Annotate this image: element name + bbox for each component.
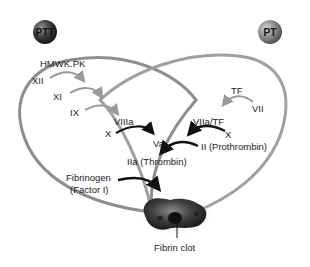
pt-label: PT [264,27,277,38]
factor-viiia: VIIIa [114,116,134,127]
factor-hmwk-pk: HMWK.PK [40,58,86,69]
factor-tf: TF [231,85,243,96]
fibrin-clot-label: Fibrin clot [154,242,196,253]
arrow-ix-to-x [85,105,117,113]
factor-xi: XI [53,91,62,102]
factor-x-extrinsic: X [225,129,232,140]
fibrin-clot-icon [134,194,218,238]
factor-vii: VII [252,103,264,114]
factor-i-label: (Factor I) [70,184,109,195]
factor-ii-prothrombin: II (Prothrombin) [201,141,267,152]
ptt-badge: PTT [33,20,57,44]
factor-va: Va [153,138,165,149]
pt-badge: PT [258,20,282,44]
factor-ix: IX [70,107,80,118]
factor-xii: XII [32,75,44,86]
factor-fibrinogen: Fibrinogen [66,172,111,183]
arrow-xii-to-xi [50,72,83,80]
arrow-x-to-va-extrinsic [190,126,225,133]
arrow-xi-to-ix [70,88,101,96]
ptt-label: PTT [36,27,55,38]
factor-x-intrinsic: X [105,128,112,139]
coagulation-diagram: PTT PT HMWK.PK XII XI IX VIIIa X TF VII … [0,0,310,267]
arrow-vii-to-viia [224,96,253,104]
extrinsic-pathway-ring [100,55,286,212]
factor-iia-thrombin: IIa (Thrombin) [127,156,187,167]
